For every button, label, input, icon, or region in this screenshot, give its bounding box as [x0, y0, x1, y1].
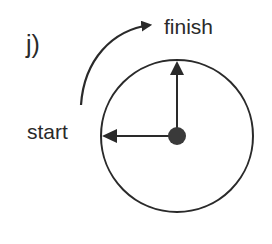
- center-dot: [168, 127, 186, 145]
- finish-arrowhead-icon: [170, 61, 184, 75]
- start-label: start: [27, 120, 68, 144]
- start-arrowhead-icon: [102, 129, 117, 143]
- panel-label: j): [26, 30, 40, 59]
- finish-label: finish: [164, 15, 213, 39]
